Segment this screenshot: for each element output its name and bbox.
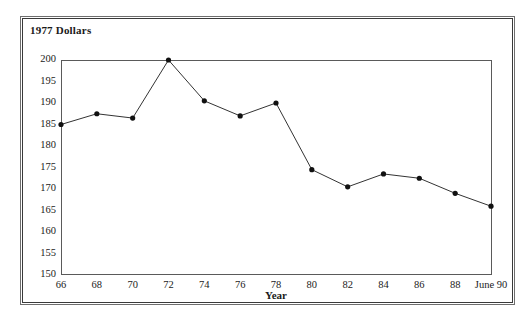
x-tick-label: 68 — [92, 279, 103, 290]
x-tick-label: 82 — [342, 279, 353, 290]
x-tick-label: 88 — [450, 279, 461, 290]
y-tick-label: 175 — [30, 161, 56, 172]
y-tick-label: 195 — [30, 75, 56, 86]
x-tick-label: 80 — [307, 279, 318, 290]
x-tick-label: 86 — [414, 279, 425, 290]
x-tick-label: 72 — [163, 279, 174, 290]
y-tick-label: 165 — [30, 204, 56, 215]
y-tick-label: 170 — [30, 182, 56, 193]
y-tick-label: 150 — [30, 268, 56, 279]
chart-figure: 1977 Dollars 200195190185180175170165160… — [0, 0, 529, 325]
plot-area — [61, 60, 492, 275]
y-tick-label: 155 — [30, 247, 56, 258]
x-tick-label: 84 — [378, 279, 389, 290]
y-tick-label: 160 — [30, 225, 56, 236]
x-tick-label: 76 — [235, 279, 246, 290]
x-tick-label: 66 — [56, 279, 67, 290]
y-tick-label: 180 — [30, 139, 56, 150]
x-tick-label: June 90 — [475, 279, 507, 290]
x-axis-title: Year — [265, 289, 287, 301]
y-tick-label: 190 — [30, 96, 56, 107]
y-tick-label: 200 — [30, 53, 56, 64]
chart-title: 1977 Dollars — [30, 24, 91, 36]
x-tick-label: 70 — [127, 279, 138, 290]
x-tick-label: 74 — [199, 279, 210, 290]
y-tick-label: 185 — [30, 118, 56, 129]
